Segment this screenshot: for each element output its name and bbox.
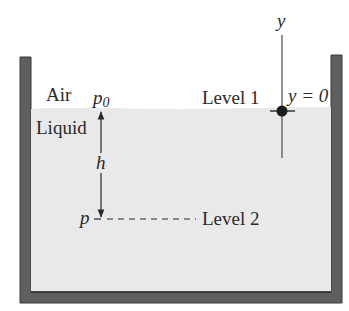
y-zero-label: y = 0 xyxy=(286,85,329,106)
y-axis-label: y xyxy=(275,10,286,31)
liquid-label: Liquid xyxy=(36,117,87,138)
p0-label: p0 xyxy=(91,87,110,110)
h-label: h xyxy=(96,152,106,173)
origin-point xyxy=(277,106,288,117)
p-label: p xyxy=(78,207,90,228)
level1-label: Level 1 xyxy=(202,87,260,108)
level2-label: Level 2 xyxy=(202,208,260,229)
air-label: Air xyxy=(46,84,72,105)
fluid-pressure-diagram: Air p0 Liquid h p Level 2 Level 1 y y = … xyxy=(0,0,349,311)
